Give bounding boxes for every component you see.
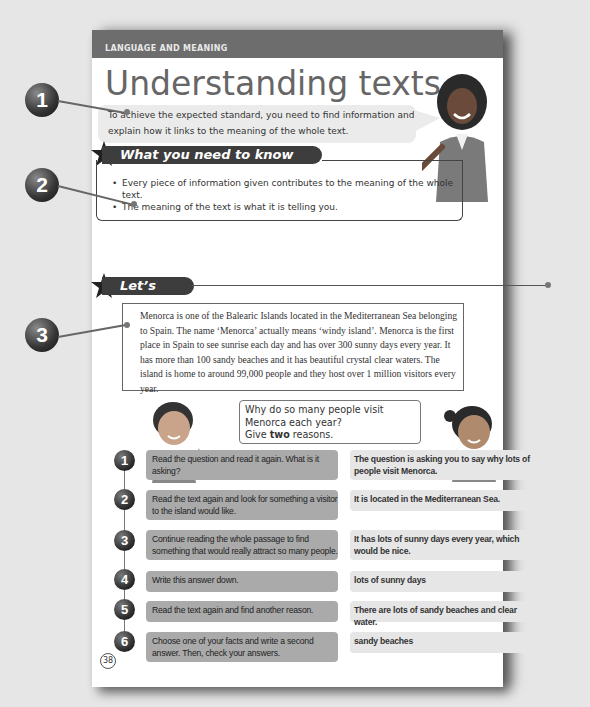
step-answer: It has lots of sunny days every year, wh… — [350, 530, 540, 560]
question-give: Give — [245, 429, 270, 440]
know-point: The meaning of the text is what it is te… — [112, 201, 457, 213]
step-instruction: Read the question and read it again. Wha… — [146, 450, 338, 480]
section-banner: LANGUAGE AND MEANING — [92, 30, 503, 58]
passage-text: Menorca is one of the Balearic Islands l… — [122, 303, 464, 391]
leader-dot — [124, 322, 130, 328]
step-answer: sandy beaches — [350, 632, 540, 653]
arrow-connector — [124, 620, 125, 631]
know-point: Every piece of information given contrib… — [112, 177, 457, 201]
step-number: 1 — [114, 450, 135, 471]
callout-3: 3 — [25, 318, 59, 352]
leader-dot — [131, 201, 137, 207]
question-box: Why do so many people visit Menorca each… — [239, 400, 421, 444]
step-number: 5 — [114, 599, 135, 620]
page-number: 38 — [100, 653, 116, 669]
textbook-page: LANGUAGE AND MEANING Understanding texts… — [92, 30, 503, 687]
step-number: 3 — [114, 530, 135, 551]
step-answer: There are lots of sandy beaches and clea… — [350, 601, 540, 622]
step-instruction: Choose one of your facts and write a sec… — [146, 632, 338, 662]
step-answer: The question is asking you to say why lo… — [350, 450, 540, 480]
step-instruction: Read the text again and look for somethi… — [146, 490, 338, 520]
page-title: Understanding texts — [105, 64, 441, 103]
step-number: 6 — [114, 631, 135, 652]
question-end: reasons. — [290, 429, 334, 440]
step-instruction: Write this answer down. — [146, 571, 338, 592]
callout-1: 1 — [25, 83, 59, 117]
step-number: 4 — [114, 569, 135, 590]
arrow-connector — [124, 551, 125, 569]
banner-label: LANGUAGE AND MEANING — [105, 44, 228, 53]
practise-heading: Let’s practise — [102, 277, 194, 295]
know-list: Every piece of information given contrib… — [112, 177, 457, 213]
step-answer: It is located in the Mediterranean Sea. — [350, 490, 540, 511]
divider-dot — [545, 282, 551, 288]
leader-dot — [124, 109, 130, 115]
arrow-connector — [124, 471, 125, 489]
divider — [192, 285, 549, 286]
step-number: 2 — [114, 489, 135, 510]
question-emphasis: two — [270, 429, 290, 440]
callout-2: 2 — [25, 168, 59, 202]
question-text: Why do so many people visit Menorca each… — [245, 404, 384, 428]
intro-speech-bubble: To achieve the expected standard, you ne… — [98, 105, 416, 143]
arrow-connector — [124, 590, 125, 599]
step-instruction: Continue reading the whole passage to fi… — [146, 530, 338, 560]
step-instruction: Read the text again and find another rea… — [146, 601, 338, 622]
arrow-connector — [124, 510, 125, 530]
step-answer: lots of sunny days — [350, 571, 540, 592]
